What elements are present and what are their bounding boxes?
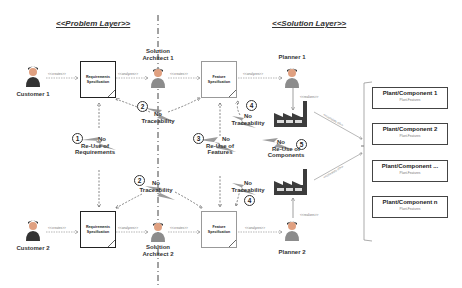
page-fold-icon	[108, 90, 115, 97]
planner-2-icon	[285, 222, 299, 242]
component-box-2[interactable]: Plant/Component 2 Plant-Features	[372, 123, 448, 145]
architect-1-label: Solution Architect 1	[136, 48, 180, 62]
page-fold-icon	[229, 90, 236, 97]
doc-line: Specification	[86, 80, 110, 85]
doc-line: Specification	[208, 80, 230, 85]
doc-line: Specification	[86, 230, 110, 235]
requirements-spec-2[interactable]: RequirementsSpecification	[80, 211, 116, 248]
issue-line: Traceability	[226, 187, 270, 194]
issue-4-bottom-text: No Traceability	[226, 180, 270, 193]
feature-spec-1[interactable]: FeatureSpecification	[201, 61, 237, 98]
component-title: Plant/Component n	[373, 199, 447, 205]
edge-label-realizes: <<realizes>>	[300, 95, 318, 99]
doc-line: Specification	[208, 230, 230, 235]
architect-1-icon	[151, 69, 165, 89]
issue-number-4-bottom: 4	[244, 195, 255, 206]
issue-4-top-text: No Traceability	[226, 113, 270, 126]
edge-label-creates: <<creates>>	[48, 72, 66, 76]
customer-2-icon	[26, 221, 40, 242]
issue-line: Features	[196, 149, 244, 156]
architect-1-line-2: Architect 1	[136, 55, 180, 62]
factory-1-icon	[274, 101, 307, 127]
customer-2-label: Customer 2	[15, 245, 51, 252]
page-fold-icon	[229, 240, 236, 247]
edge-label-analyzes: <<analyzes>>	[245, 226, 265, 230]
planner-1-label: Planner 1	[272, 54, 312, 61]
planner-2-label: Planner 2	[272, 249, 312, 256]
solution-layer-title: <<Solution Layer>>	[272, 19, 346, 28]
planner-1-icon	[285, 69, 299, 89]
edge-label-analyzes: <<analyzes>>	[118, 72, 138, 76]
issue-1-text: No Re-Use of Requirements	[70, 136, 120, 156]
issue-2-bottom-text: No Traceability	[134, 180, 178, 193]
feature-spec-2[interactable]: FeatureSpecification	[201, 211, 237, 248]
issue-5-text: No Re-Use of Components	[260, 139, 312, 159]
component-subtitle: Plant-Features	[373, 98, 447, 102]
issue-line: Traceability	[134, 187, 178, 194]
component-subtitle: Plant-Features	[373, 134, 447, 138]
issue-3-text: No Re-Use of Features	[196, 136, 244, 156]
doc-line: Requirements	[86, 75, 110, 80]
edge-label-realizes: <<realizes>>	[300, 213, 318, 217]
edge-label-creates: <<creates>>	[170, 72, 188, 76]
component-title: Plant/Component 1	[373, 90, 447, 96]
architect-2-line-2: Architect 2	[136, 251, 180, 258]
requirements-spec-1[interactable]: RequirementsSpecification	[80, 61, 116, 98]
architect-2-line-1: Solution	[136, 244, 180, 251]
component-title: Plant/Component ...	[373, 163, 447, 169]
component-subtitle: Plant-Features	[373, 171, 447, 175]
diagram-canvas: <<Problem Layer>> <<Solution Layer>> Cus…	[0, 0, 462, 288]
customer-1-label: Customer 1	[15, 91, 51, 98]
page-fold-icon	[108, 240, 115, 247]
factory-2-icon	[274, 169, 307, 195]
issue-line: Traceability	[226, 120, 270, 127]
component-box-1[interactable]: Plant/Component 1 Plant-Features	[372, 87, 448, 109]
edge-label-analyzes: <<analyzes>>	[118, 226, 138, 230]
issue-number-4-top: 4	[246, 100, 257, 111]
edge-label-creates: <<creates>>	[170, 226, 188, 230]
issue-line: Traceability	[136, 118, 180, 125]
component-title: Plant/Component 2	[373, 126, 447, 132]
component-box-n[interactable]: Plant/Component n Plant-Features	[372, 196, 448, 218]
issue-2-top-text: No Traceability	[136, 111, 180, 124]
component-box-ellipsis[interactable]: Plant/Component ... Plant-Features	[372, 160, 448, 182]
edge-label-analyzes: <<analyzes>>	[243, 72, 263, 76]
customer-1-icon	[26, 67, 40, 88]
problem-layer-title: <<Problem Layer>>	[56, 19, 130, 28]
architect-2-label: Solution Architect 2	[136, 244, 180, 258]
doc-line: Requirements	[86, 225, 110, 230]
issue-line: Requirements	[70, 149, 120, 156]
architect-2-icon	[151, 223, 165, 243]
component-subtitle: Plant-Features	[373, 207, 447, 211]
edge-label-creates: <<creates>>	[48, 226, 66, 230]
issue-line: Components	[260, 152, 312, 159]
architect-1-line-1: Solution	[136, 48, 180, 55]
